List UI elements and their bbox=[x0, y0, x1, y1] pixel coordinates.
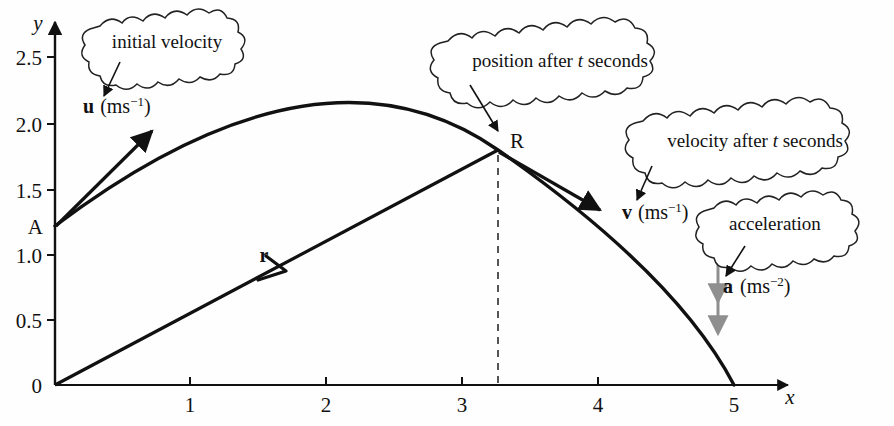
vector-u-label: u(ms−1) bbox=[83, 94, 151, 118]
vector-a-unit-close: ) bbox=[784, 275, 791, 298]
vector-v-shaft bbox=[499, 152, 600, 210]
point-label-R: R bbox=[510, 129, 524, 153]
x-tick-label-4: 4 bbox=[593, 393, 604, 417]
vector-v-unit-base: (ms bbox=[638, 201, 668, 224]
vector-v-label: v(ms−1) bbox=[622, 200, 689, 224]
y-tick-label-1.0: 1.0 bbox=[16, 244, 42, 268]
vector-u-unit-exp: −1 bbox=[130, 94, 144, 109]
vector-a-unit-base: (ms bbox=[740, 275, 770, 298]
point-label-A: A bbox=[28, 215, 44, 239]
vector-u-shaft bbox=[56, 131, 152, 226]
vector-r-label: r bbox=[260, 244, 269, 266]
vector-v-unit-exp: −1 bbox=[668, 200, 682, 215]
y-tick-label-0.5: 0.5 bbox=[16, 309, 42, 333]
callout-velocity-post: seconds bbox=[778, 130, 843, 151]
vector-a-symbol: a bbox=[723, 275, 733, 297]
y-tick-label-2.0: 2.0 bbox=[16, 113, 42, 137]
y-tick-label-2.5: 2.5 bbox=[16, 46, 42, 70]
callout-text-acceleration: acceleration bbox=[729, 213, 821, 234]
callout-text-position-after-t: position after t seconds bbox=[472, 50, 648, 71]
vector-u-unit-close: ) bbox=[144, 95, 151, 118]
callout-position-after-t: position after t seconds bbox=[430, 17, 654, 131]
callout-position-pre: position after bbox=[472, 50, 578, 71]
vector-v-unit-close: ) bbox=[682, 201, 689, 224]
callout-acceleration: acceleration bbox=[696, 191, 859, 276]
vector-u-symbol: u bbox=[83, 95, 94, 117]
origin-label: 0 bbox=[32, 374, 43, 398]
x-tick-label-2: 2 bbox=[321, 393, 332, 417]
position-vector-r-line bbox=[55, 150, 498, 385]
callout-velocity-after-t: velocity after t seconds bbox=[625, 97, 849, 200]
x-tick-label-5: 5 bbox=[729, 393, 740, 417]
callout-velocity-pre: velocity after bbox=[667, 130, 773, 151]
diagram-canvas: y x 0.5 1.0 1.5 2.0 2.5 0 1 2 3 4 5 r u(… bbox=[0, 0, 894, 426]
x-axis-label: x bbox=[784, 385, 795, 409]
callout-initial-velocity: initial velocity bbox=[82, 9, 245, 96]
vector-v-symbol: v bbox=[622, 201, 632, 223]
vector-a-unit-exp: −2 bbox=[770, 274, 784, 289]
callout-text-velocity-after-t: velocity after t seconds bbox=[667, 130, 843, 151]
y-tick-label-1.5: 1.5 bbox=[16, 179, 42, 203]
callout-position-post: seconds bbox=[583, 50, 648, 71]
x-tick-label-3: 3 bbox=[457, 393, 468, 417]
vector-a-label: a(ms−2) bbox=[723, 274, 791, 298]
x-tick-label-1: 1 bbox=[185, 393, 196, 417]
projectile-diagram: y x 0.5 1.0 1.5 2.0 2.5 0 1 2 3 4 5 r u(… bbox=[0, 0, 894, 426]
x-tick-marks bbox=[190, 377, 598, 385]
callout-text-initial-velocity: initial velocity bbox=[112, 31, 223, 52]
vector-u-unit-base: (ms bbox=[100, 95, 130, 118]
y-axis-label: y bbox=[31, 11, 43, 35]
